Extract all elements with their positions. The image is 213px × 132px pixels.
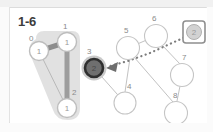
node-1[interactable]: 1 1 [58,22,77,52]
node-6[interactable]: 6 [145,14,168,48]
node-2-label: 2 [72,88,77,97]
node-5[interactable]: 5 [117,26,140,60]
screenshot-root: 1-6 [0,0,213,132]
frame-left-edge [0,7,10,132]
frame-right-edge [206,7,213,132]
node-0-value: 1 [37,47,42,56]
node-2-value: 1 [65,104,70,113]
frame-bottom-edge [9,122,207,132]
node-1-value: 1 [65,38,70,47]
edge-6-7 [162,45,180,64]
node-3-value: 2 [92,64,97,73]
node-3[interactable]: 2 3 [82,47,107,81]
node-6-label: 6 [152,14,157,23]
node-0-label: 0 [29,34,34,43]
graph-canvas: 1-6 [10,8,207,123]
boxed-node-value: 2 [192,28,197,37]
frame-top-edge [0,0,213,8]
node-4[interactable]: 4 [114,82,136,114]
boxed-node[interactable]: 2 [183,21,205,43]
node-3-label: 3 [87,47,92,56]
node-8-label: 8 [173,91,178,100]
graph-svg: 2 1 0 1 1 1 2 2 3 [10,8,207,123]
node-1-label: 1 [63,22,68,31]
node-4-label: 4 [127,82,132,91]
node-7-label: 7 [182,53,187,62]
node-5-label: 5 [124,26,129,35]
edge-5-8 [134,57,173,102]
